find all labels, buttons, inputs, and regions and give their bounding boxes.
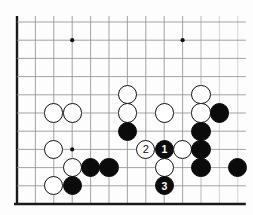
black-stone[interactable]	[191, 158, 210, 177]
star-point	[181, 38, 185, 42]
white-stone[interactable]	[63, 103, 82, 122]
black-stone[interactable]	[99, 158, 118, 177]
black-stone[interactable]	[191, 122, 210, 141]
star-point	[70, 38, 74, 42]
white-stone[interactable]	[173, 140, 192, 159]
star-point	[70, 147, 74, 151]
white-stone[interactable]	[155, 103, 174, 122]
white-stone[interactable]	[155, 158, 174, 177]
black-stone[interactable]	[191, 140, 210, 159]
stone-label: 3	[161, 181, 167, 192]
black-stone[interactable]	[118, 122, 137, 141]
black-stone[interactable]	[210, 103, 229, 122]
white-stone[interactable]	[191, 103, 210, 122]
stone-label: 2	[143, 144, 149, 155]
move-stone-1[interactable]: 1	[155, 140, 174, 159]
white-stone[interactable]	[191, 85, 210, 104]
go-board[interactable]: 213	[0, 0, 253, 215]
black-stone[interactable]	[63, 176, 82, 195]
go-diagram-root: 213	[0, 0, 253, 215]
white-stone[interactable]	[63, 158, 82, 177]
stone-label: 1	[161, 144, 167, 155]
white-stone[interactable]	[118, 103, 137, 122]
white-stone[interactable]	[44, 103, 63, 122]
move-stone-3[interactable]: 3	[155, 176, 174, 195]
